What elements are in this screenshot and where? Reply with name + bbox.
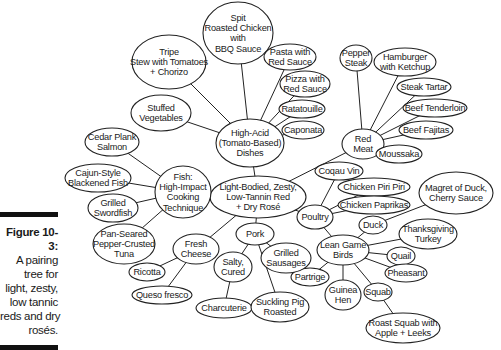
node-label: Red Sauce (268, 57, 312, 67)
node-caponata: Caponata (282, 121, 324, 139)
node-label: Meat (353, 144, 373, 154)
node-duck: Duck (359, 216, 387, 234)
node-fresh-cheese: FreshCheese (173, 234, 219, 264)
node-pheasant: Pheasant (385, 264, 427, 282)
node-label: BBQ Sauce (215, 44, 261, 54)
node-label: with Ketchup (379, 62, 430, 72)
node-label: Partrige (295, 272, 326, 282)
node-label: Pizza with (285, 74, 324, 84)
node-chicken-piri: Chicken Piri Piri (338, 178, 410, 196)
node-poultry: Poultry (297, 205, 333, 229)
node-label: Fresh (185, 239, 208, 249)
node-label: Roasted (264, 307, 297, 317)
node-label: Pasta with (270, 47, 310, 57)
node-swordfish: GrilledSwordfish (88, 194, 138, 222)
node-label: Pepper (342, 48, 371, 58)
node-charcuterie: Charcuterie (196, 298, 252, 318)
node-label: + Dry Rosé (236, 202, 280, 212)
node-label: Sausages (266, 258, 306, 268)
node-label: Pork (246, 229, 265, 239)
tree-nodes: Light-Bodied, Zesty,Low-Tannin Red+ Dry … (65, 2, 493, 343)
node-label: + Chorizo (150, 67, 188, 77)
node-label: Duck (363, 220, 384, 230)
node-label: Coqau Vin (319, 166, 360, 176)
node-label: Birds (333, 250, 354, 260)
node-label: Beef Fajitas (403, 125, 450, 135)
node-cedar: Cedar PlankSalmon (85, 128, 139, 156)
node-label: Roasted Chicken (205, 23, 272, 33)
node-label: Pepper-Crusted (93, 239, 155, 249)
node-label: (Tomato-Based) (219, 138, 282, 148)
node-moussaka: Moussaka (376, 145, 422, 163)
node-label: Ratatouille (281, 104, 322, 114)
node-label: Cedar Plank (88, 132, 137, 142)
node-label: Ricotta (133, 267, 161, 277)
node-hamburger: Hamburgerwith Ketchup (374, 48, 436, 76)
node-label: Red (355, 134, 371, 144)
node-label: Magret of Duck, (425, 183, 487, 193)
node-label: Queso fresco (136, 290, 188, 300)
node-label: Pheasant (387, 268, 425, 278)
node-label: Roast Squab with (369, 318, 438, 328)
node-label: Hen (335, 295, 351, 305)
node-beef-tenderloin: Beef Tenderloin (403, 99, 467, 117)
node-grilled-sausages: GrilledSausages (261, 243, 311, 273)
node-label: Caponata (284, 125, 323, 135)
node-label: Cherry Sauce (429, 193, 483, 203)
node-label: High-Acid (231, 128, 269, 138)
node-squab: Squab (364, 283, 392, 301)
node-label: Lean Game (320, 240, 366, 250)
node-label: Grilled (273, 248, 298, 258)
node-suckling-pig: Suckling PigRoasted (251, 292, 309, 322)
node-label: Chicken Paprikas (340, 200, 409, 210)
node-label: Technique (163, 203, 203, 213)
node-label: Stew with Tomatoes (130, 57, 209, 67)
node-pork: Pork (236, 223, 274, 245)
node-ricotta: Ricotta (129, 263, 165, 281)
node-label: Cajun-Style (75, 168, 120, 178)
node-label: Light-Bodied, Zesty, (219, 182, 296, 192)
node-label: Spit (230, 13, 246, 23)
node-tripe: TripeStew with Tomatoes+ Chorizo (130, 35, 209, 89)
node-root: Light-Bodied, Zesty,Low-Tannin Red+ Dry … (210, 176, 306, 218)
node-label: Thanksgiving (402, 224, 454, 234)
node-guinea-hen: GuineaHen (325, 280, 361, 310)
node-label: Suckling Pig (256, 297, 304, 307)
node-ratatouille: Ratatouille (279, 100, 325, 118)
node-beef-fajitas: Beef Fajitas (399, 121, 453, 139)
node-label: Poultry (301, 212, 329, 222)
node-label: Squab (365, 287, 391, 297)
node-label: Salty, (222, 257, 243, 267)
node-pizza: Pizza withRed Sauce (280, 71, 330, 97)
node-label: Fish: (174, 172, 193, 182)
node-label: Cooking (167, 192, 199, 202)
node-label: Cured (221, 267, 245, 277)
node-fish: Fish:High-ImpactCookingTechnique (155, 166, 211, 218)
node-label: Swordfish (94, 208, 133, 218)
node-salty-cured: Salty,Cured (214, 252, 252, 282)
node-label: Quail (391, 251, 412, 261)
node-label: Cheese (181, 249, 212, 259)
pairing-tree-diagram: Light-Bodied, Zesty,Low-Tannin Red+ Dry … (0, 0, 501, 350)
node-label: Pan-Seared (100, 229, 147, 239)
node-label: Tripe (159, 47, 179, 57)
node-pepper-steak: PepperSteak (340, 45, 372, 71)
node-label: Blackened Fish (68, 178, 128, 188)
node-thanksgiving: ThanksgivingTurkey (399, 219, 457, 249)
node-label: Tuna (114, 249, 135, 259)
node-high-acid: High-Acid(Tomato-Based)Dishes (216, 119, 284, 167)
node-label: Stuffed (147, 103, 175, 113)
node-label: Grilled (100, 198, 125, 208)
node-magret: Magret of Duck,Cherry Sauce (419, 172, 493, 214)
node-label: Salmon (97, 142, 127, 152)
node-label: Chicken Piri Piri (343, 182, 405, 192)
node-label: Dishes (237, 148, 264, 158)
node-stuffed-veg: StuffedVegetables (131, 95, 191, 131)
node-label: Guinea (329, 285, 359, 295)
node-quail: Quail (387, 247, 415, 265)
node-label: Red Sauce (283, 84, 327, 94)
node-cajun: Cajun-StyleBlackened Fish (65, 164, 131, 192)
node-label: High-Impact (159, 182, 207, 192)
node-coqau-vin: Coqau Vin (315, 162, 363, 180)
node-chicken-paprikas: Chicken Paprikas (338, 196, 410, 214)
